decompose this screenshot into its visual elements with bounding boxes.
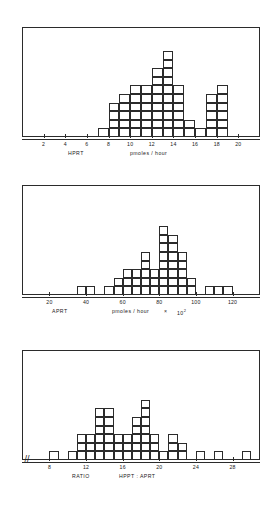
histogram-cell <box>159 226 168 235</box>
histogram-cell <box>141 111 152 120</box>
axis-tick <box>49 292 50 296</box>
histogram-cell <box>173 103 184 112</box>
histogram-cell <box>217 85 228 94</box>
multiplier-base: 10 <box>177 310 184 316</box>
axis-tick-label: 16 <box>120 464 126 470</box>
axis-tick-label: 80 <box>156 299 162 305</box>
plot-area-ratio <box>22 350 260 460</box>
histogram-cell <box>86 286 95 295</box>
histogram-cell <box>141 252 150 261</box>
histogram-cell <box>114 451 123 460</box>
histogram-cell <box>184 120 195 129</box>
axis-caption-multiplier: 102 <box>177 308 186 316</box>
axis-tick <box>217 134 218 138</box>
histogram-cell <box>178 278 187 287</box>
histogram-cell <box>141 286 150 295</box>
histogram-cell <box>86 434 95 443</box>
axis-tick <box>233 292 234 296</box>
histogram-cell <box>141 408 150 417</box>
histogram-cell <box>104 408 113 417</box>
histogram-cell <box>196 451 205 460</box>
histogram-cell <box>130 85 141 94</box>
histogram-cell <box>152 103 163 112</box>
histogram-cell <box>123 269 132 278</box>
histogram-cell <box>141 434 150 443</box>
histogram-cell <box>178 286 187 295</box>
axis-tick-label: 8 <box>107 141 110 147</box>
histogram-cell <box>150 286 159 295</box>
histogram-cell <box>187 286 196 295</box>
axis-tick-label: 16 <box>192 141 198 147</box>
histogram-cell <box>206 94 217 103</box>
axis-line <box>22 139 260 140</box>
histogram-cell <box>141 269 150 278</box>
histogram-cell <box>104 451 113 460</box>
histogram-cell <box>104 434 113 443</box>
histogram-cell <box>168 443 177 452</box>
histogram-cell <box>187 278 196 287</box>
axis-caption-variable: HPRT <box>68 150 84 156</box>
histogram-cell <box>119 128 130 137</box>
histogram-cell <box>141 103 152 112</box>
histogram-cell <box>141 451 150 460</box>
x-axis-hprt: 2468101214161820 HPRT pmoles / hour <box>22 137 260 169</box>
axis-tick-label: 120 <box>228 299 237 305</box>
histogram-cell <box>141 94 152 103</box>
histogram-cell <box>141 417 150 426</box>
figure-container: 2468101214161820 HPRT pmoles / hour 2040… <box>0 0 279 517</box>
histogram-cell <box>159 252 168 261</box>
histogram-cell <box>77 443 86 452</box>
histogram-cell <box>206 103 217 112</box>
histogram-cell <box>163 77 174 86</box>
histogram-cell <box>104 443 113 452</box>
histogram-cell <box>123 434 132 443</box>
histogram-cell <box>206 120 217 129</box>
histogram-cell <box>130 120 141 129</box>
axis-caption-unit: HPPT : APRT <box>119 473 155 479</box>
histogram-cell <box>214 451 223 460</box>
axis-tick <box>44 134 45 138</box>
histogram-panel-hprt: 2468101214161820 HPRT pmoles / hour <box>22 27 260 169</box>
histogram-cell <box>152 85 163 94</box>
histogram-cell <box>159 235 168 244</box>
axis-tick-label: 28 <box>229 464 235 470</box>
x-axis-aprt: 20406080100120 APRT pmoles / hour × 102 <box>22 295 260 327</box>
histogram-cell <box>163 111 174 120</box>
axis-tick-label: 12 <box>149 141 155 147</box>
histogram-cell <box>150 269 159 278</box>
axis-tick <box>123 457 124 461</box>
histogram-cell <box>141 278 150 287</box>
histogram-cell <box>86 443 95 452</box>
histogram-cell <box>205 286 214 295</box>
histogram-cell <box>109 103 120 112</box>
histogram-cell <box>163 51 174 60</box>
histogram-cell <box>152 68 163 77</box>
axis-tick <box>238 134 239 138</box>
histogram-cell <box>217 111 228 120</box>
axis-caption-unit: pmoles / hour <box>112 308 149 314</box>
histogram-cell <box>130 111 141 120</box>
histogram-cell <box>119 111 130 120</box>
axis-tick <box>159 457 160 461</box>
axis-tick <box>65 134 66 138</box>
histogram-cell <box>159 261 168 270</box>
histogram-cell <box>95 434 104 443</box>
axis-tick <box>86 292 87 296</box>
histogram-cell <box>95 443 104 452</box>
histogram-cell <box>119 94 130 103</box>
histogram-cell <box>114 443 123 452</box>
histogram-cell <box>104 286 113 295</box>
histogram-cell <box>173 128 184 137</box>
histogram-cell <box>77 451 86 460</box>
histogram-cell <box>195 128 206 137</box>
histogram-cell <box>223 286 232 295</box>
histogram-cell <box>163 68 174 77</box>
histogram-cell <box>119 103 130 112</box>
histogram-cell <box>178 443 187 452</box>
x-axis-ratio: 81216202428 // RATIO HPPT : APRT <box>22 460 260 492</box>
histogram-cell <box>217 103 228 112</box>
axis-tick <box>233 457 234 461</box>
histogram-cell <box>152 128 163 137</box>
histogram-cell <box>95 426 104 435</box>
axis-tick-label: 12 <box>83 464 89 470</box>
